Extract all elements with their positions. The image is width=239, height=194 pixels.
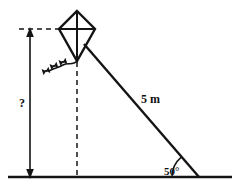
kite-trigonometry-figure: 5 m 50° ? <box>0 0 239 194</box>
height-dimension-arrow <box>26 27 34 179</box>
unknown-height-label: ? <box>19 96 25 110</box>
kite-shape <box>59 11 95 61</box>
ground-angle-label: 50° <box>164 165 179 177</box>
kite-string-line <box>84 44 199 177</box>
string-length-label: 5 m <box>141 92 160 106</box>
kite-tail <box>42 58 77 75</box>
tail-bow-icon <box>42 67 51 75</box>
diagram-canvas: 5 m 50° ? <box>0 0 239 194</box>
